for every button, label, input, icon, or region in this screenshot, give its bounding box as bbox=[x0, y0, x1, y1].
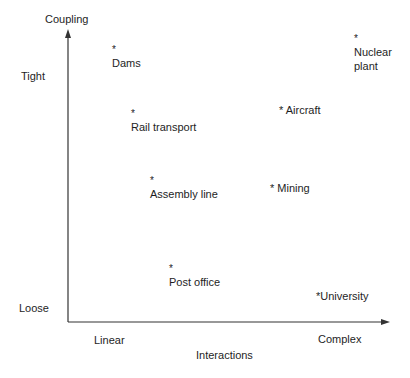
point-label-aircraft: * Aircraft bbox=[279, 104, 321, 117]
marker-assembly-line: * bbox=[150, 176, 154, 186]
marker-rail-transport: * bbox=[131, 109, 135, 119]
x-tick-linear: Linear bbox=[94, 334, 125, 347]
y-tick-loose: Loose bbox=[19, 302, 49, 315]
point-label-assembly-line: Assembly line bbox=[150, 188, 218, 201]
marker-post-office: * bbox=[169, 264, 173, 274]
marker-dams: * bbox=[112, 45, 116, 55]
marker-nuclear-plant: * bbox=[354, 34, 358, 44]
point-label-university: *University bbox=[316, 290, 369, 303]
x-tick-complex: Complex bbox=[318, 333, 361, 346]
point-label-nuclear-1: Nuclear bbox=[354, 46, 392, 59]
point-label-dams: Dams bbox=[112, 57, 141, 70]
y-axis-title: Coupling bbox=[45, 13, 88, 26]
point-label-mining: * Mining bbox=[270, 182, 310, 195]
x-axis-title: Interactions bbox=[196, 349, 253, 362]
x-axis-arrow-icon bbox=[381, 319, 390, 325]
point-label-nuclear-2: plant bbox=[354, 60, 378, 73]
point-label-rail-transport: Rail transport bbox=[131, 121, 196, 134]
point-label-post-office: Post office bbox=[169, 276, 220, 289]
y-tick-tight: Tight bbox=[21, 70, 45, 83]
y-axis-arrow-icon bbox=[65, 29, 71, 38]
